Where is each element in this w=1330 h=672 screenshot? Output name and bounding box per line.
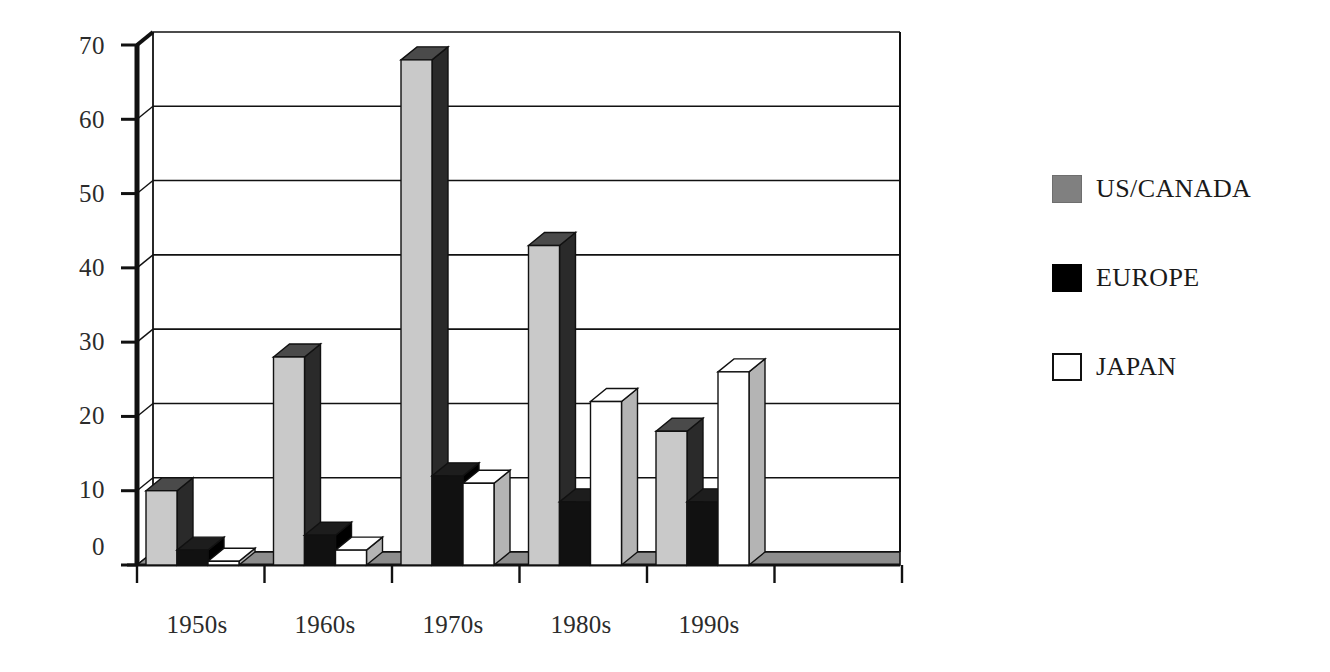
legend-item-europe: EUROPE bbox=[1052, 261, 1312, 295]
x-tick-1960s: 1960s bbox=[265, 612, 385, 638]
legend-item-japan: JAPAN bbox=[1052, 350, 1312, 384]
gray-swatch-icon bbox=[1052, 175, 1082, 203]
legend-item-us-canada: US/CANADA bbox=[1052, 172, 1312, 206]
bar-chart: 70 60 50 40 30 20 10 0 1950s 1960s 1970s… bbox=[0, 0, 1330, 672]
legend-label-japan: JAPAN bbox=[1096, 353, 1177, 381]
chart-legend: US/CANADA EUROPE JAPAN bbox=[1052, 172, 1312, 439]
white-swatch-icon bbox=[1052, 353, 1082, 381]
x-tick-1970s: 1970s bbox=[393, 612, 513, 638]
x-tick-1950s: 1950s bbox=[137, 612, 257, 638]
legend-label-us-canada: US/CANADA bbox=[1096, 175, 1251, 203]
black-swatch-icon bbox=[1052, 264, 1082, 292]
x-tick-1990s: 1990s bbox=[649, 612, 769, 638]
legend-label-europe: EUROPE bbox=[1096, 264, 1200, 292]
x-tick-1980s: 1980s bbox=[521, 612, 641, 638]
